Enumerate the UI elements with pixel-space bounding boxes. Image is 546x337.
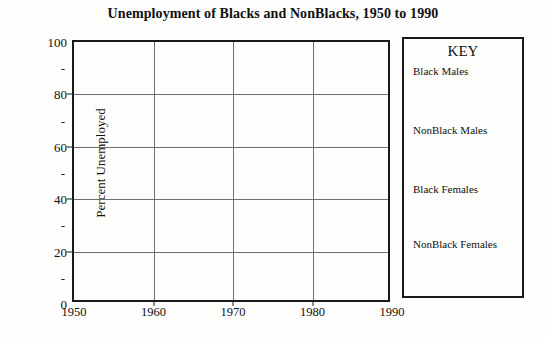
x-axis-tick-label: 1960 [141, 306, 166, 319]
y-axis-title: Percent Unemployed [93, 32, 109, 294]
y-axis-minor-tick: - [23, 62, 65, 75]
chart-title: Unemployment of Blacks and NonBlacks, 19… [0, 6, 546, 22]
y-axis-tick-label: 80 [25, 88, 67, 101]
gridline-horizontal [74, 147, 388, 148]
gridline-vertical [313, 42, 314, 300]
y-axis-minor-tick: - [23, 271, 65, 284]
y-axis-tick-label: 40 [25, 193, 67, 206]
y-axis-minor-tick: - [23, 219, 65, 232]
x-axis-tick-label: 1950 [62, 306, 87, 319]
x-axis-tick-label: 1980 [300, 306, 325, 319]
chart-figure: Unemployment of Blacks and NonBlacks, 19… [0, 0, 546, 337]
legend-item: Black Males [413, 66, 468, 77]
legend-item: NonBlack Females [413, 239, 497, 250]
legend-item: NonBlack Males [413, 125, 487, 136]
y-axis-minor-tick: - [23, 114, 65, 127]
gridline-horizontal [74, 94, 388, 95]
y-axis-minor-tick: - [23, 167, 65, 180]
y-axis-tick-mark [67, 251, 74, 252]
x-axis-tick-label: 1990 [380, 306, 405, 319]
legend-box: KEY Black MalesNonBlack MalesBlack Femal… [402, 37, 524, 298]
gridline-vertical [154, 42, 155, 300]
y-axis-tick-mark [67, 94, 74, 95]
legend-item: Black Females [413, 184, 478, 195]
y-axis-tick-label: 100 [25, 36, 67, 49]
y-axis-tick-label: 60 [25, 140, 67, 153]
gridline-horizontal [74, 199, 388, 200]
gridline-vertical [233, 42, 234, 300]
y-axis-tick-label: 20 [25, 245, 67, 258]
legend-title: KEY [404, 44, 522, 59]
y-axis-tick-mark [67, 199, 74, 200]
x-axis-tick-mark [233, 300, 234, 306]
gridline-horizontal [74, 252, 388, 253]
x-axis-tick-mark [153, 300, 154, 306]
x-axis-tick-label: 1970 [221, 306, 246, 319]
plot-area: Percent Unemployed 100806040200----- 195… [72, 40, 390, 302]
y-axis-tick-mark [67, 146, 74, 147]
x-axis-tick-mark [312, 300, 313, 306]
